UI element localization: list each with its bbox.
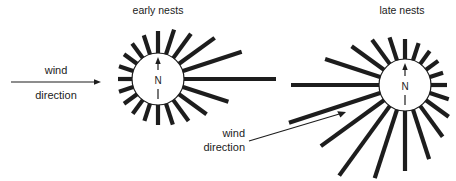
wind-center-line2: direction	[203, 141, 245, 153]
compass-label-early-overlay: N	[154, 75, 161, 86]
late-nests-title: late nests	[380, 4, 425, 16]
wind-left-line2: direction	[35, 89, 77, 101]
wind-left-line1: wind	[44, 64, 68, 76]
rose-petal	[390, 37, 398, 63]
rose-petal	[165, 101, 173, 125]
early-nests-title: early nests	[133, 4, 184, 16]
wind-arrow-left-head	[94, 79, 101, 85]
rose-diagram-late-nests	[289, 37, 449, 178]
wind-direction-center: wind direction	[203, 111, 346, 153]
wind-arrow-center-shaft	[249, 114, 341, 142]
rose-petal	[165, 30, 174, 58]
figure-canvas: early nests late nests N N wind directio…	[0, 0, 456, 181]
compass-label-late-overlay: N	[401, 81, 408, 92]
wind-direction-left: wind direction	[11, 64, 101, 101]
wind-rose-figure: early nests late nests N N wind directio…	[0, 0, 456, 181]
wind-center-line1: wind	[221, 127, 245, 139]
rose-petal	[289, 92, 383, 123]
rose-petal	[375, 107, 398, 178]
